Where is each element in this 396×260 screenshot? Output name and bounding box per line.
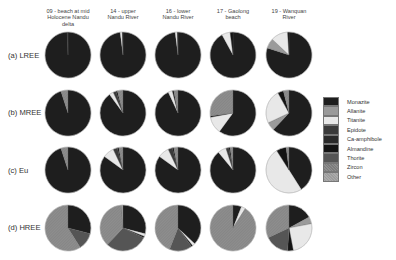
legend-item-titanite: Titanite [323,116,382,125]
legend-item-allanite: Allanite [323,106,382,115]
pie-dhree-1 [100,205,146,251]
legend-item-ca-amphibole: Ca-amphibole [323,135,382,144]
legend-item-almandine: Almandine [323,144,382,153]
legend-swatch [323,153,339,162]
pie-bmree-1 [100,90,146,136]
row-label-eu: (c) Eu [8,166,28,175]
legend-swatch [323,125,339,134]
pie-dhree-4 [266,205,312,251]
legend-label: Zircon [347,164,363,170]
pie-dhree-3 [210,205,256,251]
pie-alree-1 [100,32,146,78]
legend-swatch [323,163,339,172]
legend-item-epidote: Epidote [323,125,382,134]
pie-bmree-3 [210,90,256,136]
legend-swatch [323,144,339,153]
pie-slice-zircon [210,90,233,116]
legend-label: Almandine [347,146,373,152]
legend-swatch [323,97,339,106]
legend-label: Epidote [347,127,366,133]
legend-item-monazite: Monazite [323,97,382,106]
legend-item-thorite: Thorite [323,153,382,162]
pie-alree-4 [266,32,312,78]
row-label-hree: (d) HREE [8,223,41,232]
pie-alree-3 [210,32,256,78]
legend-item-other: Other [323,172,382,181]
legend-label: Thorite [347,155,364,161]
pie-ceu-3 [210,147,256,193]
pie-alree-0 [45,32,91,78]
pie-alree-2 [155,32,201,78]
pie-ceu-2 [155,147,201,193]
legend-label: Monazite [347,99,370,105]
pie-dhree-0 [45,205,91,251]
row-label-mree: (b) MREE [8,108,41,117]
legend-swatch [323,135,339,144]
legend-label: Ca-amphibole [347,136,382,142]
legend-label: Titanite [347,117,365,123]
pie-chart-grid: 09 - beach at mid Holocene Nandu delta 1… [0,0,396,260]
row-label-lree: (a) LREE [8,51,39,60]
pie-bmree-4 [266,90,312,136]
pie-ceu-0 [45,147,91,193]
legend: Monazite Allanite Titanite Epidote Ca-am… [323,97,382,182]
pie-bmree-0 [45,90,91,136]
pie-bmree-2 [155,90,201,136]
legend-swatch [323,116,339,125]
pie-ceu-1 [100,147,146,193]
pie-ceu-4 [266,147,312,193]
column-title-line: delta [33,21,103,27]
legend-item-zircon: Zircon [323,163,382,172]
pie-dhree-2 [155,205,201,251]
legend-swatch [323,172,339,181]
legend-swatch [323,106,339,115]
legend-label: Other [347,174,361,180]
legend-label: Allanite [347,108,365,114]
column-title-line: River [254,14,324,20]
column-title-19: 19 - Wanquan River [254,8,324,21]
